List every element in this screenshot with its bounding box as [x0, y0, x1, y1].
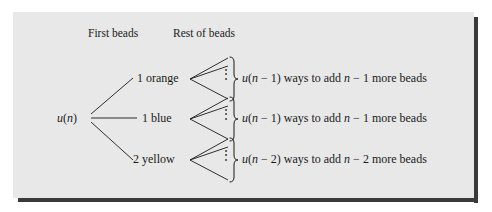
ellipsis-blue: ⋮ [220, 112, 232, 117]
figure-canvas: ⋮ ⋮ ⋮ First beads Rest of beads u(n) 1 o… [0, 0, 492, 212]
desc-minus-orange: − [258, 71, 271, 85]
node-label-orange: 1 orange [137, 72, 179, 84]
header-rest-of-beads: Rest of beads [173, 28, 235, 40]
node-label-yellow: 2 yellow [133, 153, 175, 165]
desc-minus2-blue: − [350, 111, 363, 125]
desc-mid-blue: ways to add [281, 111, 344, 125]
desc-tail-blue: more beads [369, 111, 427, 125]
desc-minus2-orange: − [350, 71, 363, 85]
tree-lines [0, 0, 492, 212]
ellipsis-orange: ⋮ [220, 72, 232, 77]
description-orange: u(n − 1) ways to add n − 1 more beads [242, 72, 427, 84]
desc-minus-yellow: − [258, 152, 271, 166]
root-close-paren: ) [73, 111, 77, 125]
desc-mid-yellow: ways to add [281, 152, 344, 166]
header-first-beads: First beads [88, 28, 138, 40]
edge-root-to-yellow [91, 122, 133, 160]
desc-minus2-yellow: − [350, 152, 363, 166]
desc-tail-orange: more beads [369, 71, 427, 85]
edge-root-to-orange [91, 78, 133, 114]
description-yellow: u(n − 2) ways to add n − 2 more beads [242, 153, 427, 165]
root-node: u(n) [57, 112, 77, 124]
desc-mid-orange: ways to add [281, 71, 344, 85]
node-label-blue: 1 blue [142, 112, 172, 124]
description-blue: u(n − 1) ways to add n − 1 more beads [242, 112, 427, 124]
ellipsis-yellow: ⋮ [220, 153, 232, 158]
desc-tail-yellow: more beads [369, 152, 427, 166]
desc-minus-blue: − [258, 111, 271, 125]
